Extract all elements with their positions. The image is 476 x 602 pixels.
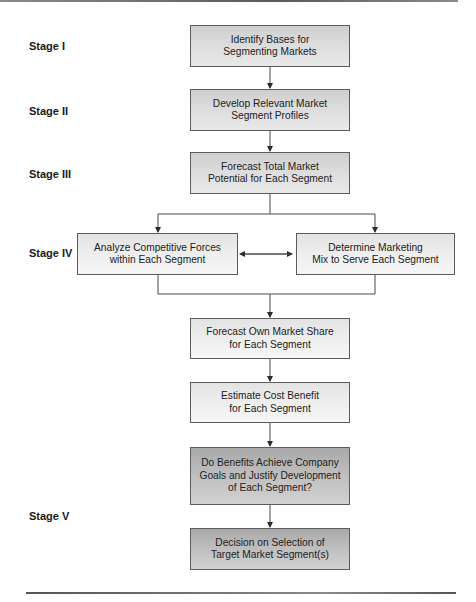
node-text-line: Decision on Selection of [211,537,329,550]
node-text-line: Identify Bases for [223,34,316,47]
node-text-line: for Each Segment [221,403,319,416]
stage-label-5: Stage V [29,510,69,522]
node-text-line: Goals and Justify Development [200,470,341,483]
node-text-line: Segment Profiles [213,110,327,123]
node-text-line: Target Market Segment(s) [211,549,329,562]
node-text-line: of Each Segment? [200,482,341,495]
stage-label-3: Stage III [29,168,71,180]
node-text-line: Do Benefits Achieve Company [200,457,341,470]
node-text-line: Estimate Cost Benefit [221,390,319,403]
node-analyze-forces: Analyze Competitive Forces within Each S… [77,233,238,275]
stage-label-2: Stage II [29,105,68,117]
node-benefits-check: Do Benefits Achieve Company Goals and Ju… [190,447,350,505]
node-text-line: Potential for Each Segment [208,173,332,186]
node-text-line: Analyze Competitive Forces [94,242,221,255]
node-text-line: Develop Relevant Market [213,98,327,111]
node-text-line: for Each Segment [206,339,333,352]
node-forecast-total: Forecast Total Market Potential for Each… [190,152,350,194]
bottom-rule [26,592,456,594]
top-rule [0,0,458,2]
node-estimate-cost: Estimate Cost Benefit for Each Segment [190,382,350,423]
stage-label-4: Stage IV [29,247,72,259]
node-text-line: Mix to Serve Each Segment [312,254,438,267]
node-develop-profiles: Develop Relevant Market Segment Profiles [190,89,350,131]
node-text-line: Segmenting Markets [223,46,316,59]
node-forecast-share: Forecast Own Market Share for Each Segme… [190,318,350,359]
node-text-line: within Each Segment [94,254,221,267]
node-determine-mix: Determine Marketing Mix to Serve Each Se… [296,233,455,275]
node-text-line: Determine Marketing [312,242,438,255]
node-decision: Decision on Selection of Target Market S… [190,528,350,570]
node-text-line: Forecast Own Market Share [206,326,333,339]
node-text-line: Forecast Total Market [208,161,332,174]
node-identify-bases: Identify Bases for Segmenting Markets [190,25,350,67]
stage-label-1: Stage I [29,40,65,52]
